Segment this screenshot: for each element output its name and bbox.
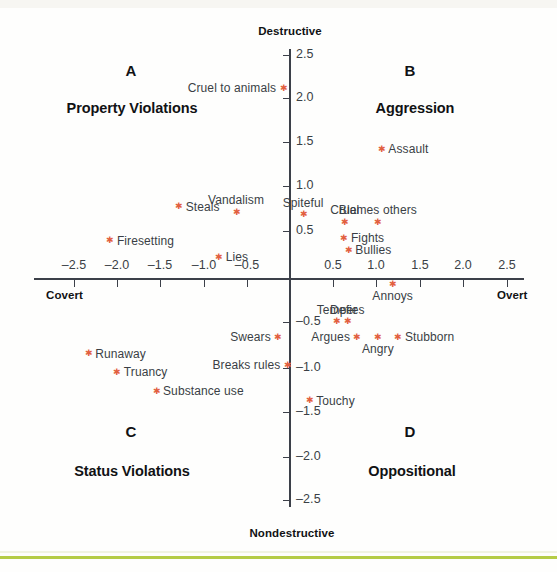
y-axis-tick-label: 2.5 xyxy=(296,47,314,61)
y-axis-tick-label: 1.5 xyxy=(296,134,314,148)
data-point-marker xyxy=(374,219,381,226)
data-point-marker xyxy=(341,219,348,226)
data-point-marker xyxy=(215,254,222,261)
data-point-label: Truancy xyxy=(124,365,168,379)
x-axis-tick-mark xyxy=(420,280,421,287)
data-point-label: Breaks rules xyxy=(212,358,280,372)
data-point-label: Argues xyxy=(311,330,350,344)
data-point-label: Stubborn xyxy=(405,330,455,344)
quadrant-letter-d: D xyxy=(405,423,416,440)
top-margin-band xyxy=(0,0,557,8)
quadrant-name-c: Status Violations xyxy=(74,463,190,479)
data-point-marker xyxy=(113,369,120,376)
scatter-plot-figure: Destructive Nondestructive Covert Overt … xyxy=(0,0,557,572)
data-point-label: Runaway xyxy=(95,347,146,361)
quadrant-name-b: Aggression xyxy=(376,100,455,116)
pole-label-left: Covert xyxy=(46,289,83,301)
data-point-marker xyxy=(106,237,113,244)
x-axis-line xyxy=(34,278,524,280)
data-point-label: Cruel to animals xyxy=(188,81,276,95)
data-point-label: Lies xyxy=(226,250,248,264)
y-axis-tick-mark xyxy=(283,98,290,99)
data-point-label: Swears xyxy=(230,330,271,344)
data-point-label: Assault xyxy=(388,142,428,156)
x-axis-tick-label: 1.0 xyxy=(367,258,385,272)
data-point-label: Bullies xyxy=(355,243,391,257)
data-point-label: Firesetting xyxy=(117,234,174,248)
data-point-marker xyxy=(300,211,307,218)
pole-label-bottom: Nondestructive xyxy=(249,527,334,539)
y-axis-tick-mark xyxy=(283,500,290,501)
data-point-marker xyxy=(353,334,360,341)
data-point-marker xyxy=(233,209,240,216)
x-axis-tick-mark xyxy=(247,280,248,287)
data-point-marker xyxy=(175,203,182,210)
y-axis-tick-label: –2.5 xyxy=(296,492,321,506)
quadrant-name-d: Oppositional xyxy=(368,463,455,479)
data-point-marker xyxy=(378,146,385,153)
y-axis-tick-mark xyxy=(283,457,290,458)
data-point-marker xyxy=(344,318,351,325)
x-axis-tick-label: –1.5 xyxy=(148,258,173,272)
footer-rule-green xyxy=(0,556,557,559)
x-axis-tick-label: –2.5 xyxy=(62,258,87,272)
data-point-marker xyxy=(333,318,340,325)
data-point-marker xyxy=(153,388,160,395)
data-point-marker xyxy=(345,247,352,254)
x-axis-tick-label: 1.5 xyxy=(411,258,429,272)
y-axis-tick-label: –1.0 xyxy=(296,360,321,374)
data-point-marker xyxy=(389,281,396,288)
data-point-label: Defies xyxy=(330,303,365,317)
x-axis-tick-mark xyxy=(160,280,161,287)
data-point-marker xyxy=(394,334,401,341)
x-axis-tick-mark xyxy=(463,280,464,287)
x-axis-tick-label: –1.0 xyxy=(192,258,217,272)
x-axis-tick-label: 0.5 xyxy=(324,258,342,272)
y-axis-tick-mark xyxy=(283,142,290,143)
data-point-label: Touchy xyxy=(316,394,355,408)
data-point-label: Steals xyxy=(186,200,220,214)
quadrant-letter-b: B xyxy=(405,62,416,79)
data-point-marker xyxy=(306,397,313,404)
data-point-marker xyxy=(280,85,287,92)
y-axis-tick-label: 1.0 xyxy=(296,178,314,192)
quadrant-letter-a: A xyxy=(126,62,137,79)
y-axis-tick-mark xyxy=(283,231,290,232)
y-axis-tick-label: –2.0 xyxy=(296,449,321,463)
x-axis-tick-mark xyxy=(333,280,334,287)
y-axis-tick-mark xyxy=(283,412,290,413)
x-axis-tick-mark xyxy=(376,280,377,287)
y-axis-tick-mark xyxy=(283,55,290,56)
data-point-label: Annoys xyxy=(372,289,413,303)
pole-label-top: Destructive xyxy=(258,25,322,37)
data-point-label: Spiteful xyxy=(283,196,324,210)
data-point-marker xyxy=(284,362,291,369)
data-point-marker xyxy=(85,350,92,357)
x-axis-tick-label: –2.0 xyxy=(105,258,130,272)
x-axis-tick-label: 2.5 xyxy=(498,258,516,272)
data-point-marker xyxy=(340,235,347,242)
y-axis-tick-label: 0.5 xyxy=(296,223,314,237)
quadrant-letter-c: C xyxy=(126,423,137,440)
data-point-marker xyxy=(274,334,281,341)
data-point-label: Blames others xyxy=(339,203,417,217)
data-point-marker xyxy=(374,334,381,341)
y-axis-tick-mark xyxy=(283,186,290,187)
y-axis-tick-mark xyxy=(283,322,290,323)
footer-rule-pale xyxy=(0,551,557,553)
data-point-label: Substance use xyxy=(163,384,244,398)
x-axis-tick-mark xyxy=(507,280,508,287)
quadrant-name-a: Property Violations xyxy=(67,100,198,116)
x-axis-tick-mark xyxy=(117,280,118,287)
x-axis-tick-mark xyxy=(204,280,205,287)
pole-label-right: Overt xyxy=(497,289,528,301)
y-axis-tick-label: 2.0 xyxy=(296,90,314,104)
x-axis-tick-label: 2.0 xyxy=(454,258,472,272)
data-point-label: Angry xyxy=(362,342,394,356)
x-axis-tick-mark xyxy=(74,280,75,287)
